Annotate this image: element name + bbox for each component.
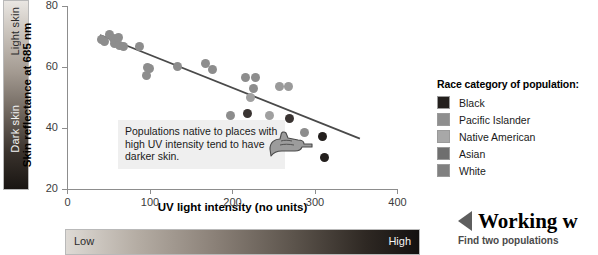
y-tick-label: 60: [46, 60, 58, 72]
legend-swatch: [437, 130, 450, 143]
x-tick-label: 200: [223, 196, 241, 208]
legend-label: White: [459, 165, 486, 177]
light-skin-label: Light skin: [9, 7, 21, 55]
dark-skin-label: Dark skin: [9, 105, 21, 153]
data-point: [173, 62, 182, 71]
x-tick-label: 400: [388, 196, 406, 208]
legend-swatch: [437, 113, 450, 126]
x-tick-label: 100: [141, 196, 159, 208]
legend-rows: BlackPacific IslanderNative AmericanAsia…: [437, 94, 598, 179]
legend: Race category of population: BlackPacifi…: [437, 78, 598, 179]
y-tick-label: 80: [46, 0, 58, 11]
callout-title: Working w: [478, 210, 578, 232]
annotation-callout: Populations native to places with high U…: [118, 120, 285, 169]
legend-swatch: [437, 164, 450, 177]
legend-label: Asian: [459, 148, 485, 160]
legend-title: Race category of population:: [437, 78, 598, 90]
data-point: [265, 111, 274, 120]
uv-high-label: High: [388, 235, 411, 247]
data-point: [208, 65, 217, 74]
callout-subtitle: Find two populations: [458, 235, 598, 246]
y-tick-label: 40: [46, 121, 58, 133]
data-point: [142, 71, 151, 80]
working-with-callout: Working w Find two populations: [458, 210, 598, 246]
x-tick-label: 0: [64, 196, 70, 208]
data-point: [285, 114, 294, 123]
y-tick-label: 20: [46, 182, 58, 194]
legend-swatch: [437, 96, 450, 109]
data-point: [119, 42, 128, 51]
legend-item: White: [437, 162, 598, 179]
legend-label: Native American: [459, 131, 535, 143]
legend-item: Black: [437, 94, 598, 111]
x-tick: 300: [315, 189, 316, 194]
legend-swatch: [437, 147, 450, 160]
x-tick-label: 300: [306, 196, 324, 208]
callout-heading-row: Working w: [458, 210, 598, 232]
data-point: [135, 42, 144, 51]
pointing-hand-icon: [268, 129, 314, 159]
legend-label: Black: [459, 97, 485, 109]
uv-intensity-gradient-bar: Low High: [65, 229, 420, 255]
x-tick: 200: [232, 189, 233, 194]
data-point: [243, 109, 252, 118]
data-point: [251, 73, 260, 82]
data-point: [226, 111, 235, 120]
x-tick: 100: [150, 189, 151, 194]
data-point: [246, 93, 255, 102]
uv-low-label: Low: [74, 235, 94, 247]
legend-item: Asian: [437, 145, 598, 162]
legend-item: Pacific Islander: [437, 111, 598, 128]
legend-label: Pacific Islander: [459, 114, 530, 126]
y-axis-title: Skin reflectance at 685 nm: [21, 23, 33, 167]
legend-item: Native American: [437, 128, 598, 145]
x-tick: 400: [397, 189, 398, 194]
left-triangle-icon: [458, 211, 472, 231]
x-tick: 0: [67, 189, 68, 194]
data-point: [249, 84, 258, 93]
data-point: [284, 82, 293, 91]
